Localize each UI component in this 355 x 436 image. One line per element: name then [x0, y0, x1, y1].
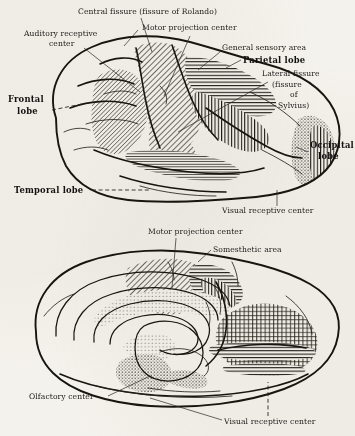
label-general-sensory-area: General sensory area — [222, 43, 307, 52]
brain-diagram-figure: Central fissure (fissure of Rolando)Moto… — [0, 0, 355, 436]
label-central-fissure: Central fissure (fissure of Rolando) — [78, 7, 217, 16]
label-lateral-fissure: Lateral fissure — [262, 69, 320, 78]
label-fissure-of-2: of — [290, 90, 299, 99]
label-motor-projection: Motor projection center — [142, 23, 237, 32]
label-fissure-of-1: (fissure — [272, 80, 302, 89]
label-auditory-receptive-2: center — [49, 39, 75, 48]
label-auditory-receptive-1: Auditory receptive — [23, 29, 98, 38]
label-frontal-lobe-2: lobe — [17, 106, 38, 116]
label-occipital-lobe-1: Occipital — [310, 140, 354, 150]
label-frontal-lobe-1: Frontal — [8, 94, 44, 104]
label-motor-projection-center: Motor projection center — [148, 227, 243, 236]
label-somesthetic-area: Somesthetic area — [213, 245, 282, 254]
brain-diagram-svg: Central fissure (fissure of Rolando)Moto… — [0, 0, 355, 436]
label-temporal-lobe: Temporal lobe — [14, 185, 83, 195]
label-parietal-lobe: Parietal lobe — [243, 55, 305, 65]
label-visual-receptive-center: Visual receptive center — [223, 417, 316, 426]
label-occipital-lobe-2: lobe — [318, 151, 339, 161]
label-visual-receptive-center: Visual receptive center — [221, 206, 314, 215]
label-olfactory-center: Olfactory center — [29, 392, 94, 401]
label-fissure-of-3: Sylvius) — [278, 101, 309, 110]
